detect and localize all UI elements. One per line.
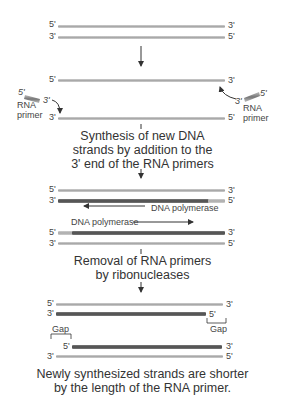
end-label: 5' bbox=[49, 228, 56, 237]
end-label: 5' bbox=[228, 32, 235, 41]
caption-line: Newly synthesized strands are shorter bbox=[0, 367, 285, 381]
caption-line: strands by addition to the bbox=[0, 143, 285, 157]
end-label: 3' bbox=[49, 113, 56, 122]
end-label: 3' bbox=[47, 352, 54, 361]
caption-line: Synthesis of new DNA bbox=[0, 129, 285, 143]
end-label: 3' bbox=[49, 239, 56, 248]
dna-polymerase-label: DNA polymerase bbox=[71, 217, 139, 227]
dna-polymerase-label: DNA polymerase bbox=[151, 203, 219, 213]
end-label: 3' bbox=[47, 309, 54, 318]
new-strand-bottom bbox=[72, 345, 222, 349]
caption-line: by the length of the RNA primer. bbox=[0, 381, 285, 395]
new-strand-top bbox=[56, 312, 206, 316]
template-strand-top bbox=[58, 189, 225, 192]
primer-end-label: 5' bbox=[18, 88, 25, 97]
end-label: 5' bbox=[228, 239, 235, 248]
primer-end-label: 3' bbox=[235, 97, 242, 106]
rna-primer-label: primer bbox=[243, 114, 269, 123]
end-label: 5' bbox=[228, 113, 235, 122]
end-label: 5' bbox=[47, 299, 54, 308]
template-strand-bottom bbox=[58, 117, 225, 120]
gap-label: Gap bbox=[52, 324, 69, 334]
caption-result: Newly synthesized strands are shorter by… bbox=[0, 367, 285, 395]
end-label: 5' bbox=[49, 20, 56, 29]
template-strand-bottom bbox=[56, 355, 223, 358]
primer-end-label: 3' bbox=[43, 96, 50, 105]
gap-bracket-left bbox=[51, 334, 71, 339]
end-label: 3' bbox=[228, 21, 235, 30]
end-label: 5' bbox=[209, 310, 216, 319]
new-strand-bottom bbox=[72, 231, 225, 235]
end-label: 3' bbox=[49, 32, 56, 41]
rna-primer-label: primer bbox=[17, 111, 43, 120]
caption-line: by ribonucleases bbox=[0, 268, 285, 282]
rna-primer-label: RNA bbox=[243, 104, 262, 113]
end-label: 5' bbox=[228, 196, 235, 205]
caption-line: Removal of RNA primers bbox=[0, 254, 285, 268]
end-label: 3' bbox=[49, 196, 56, 205]
end-label: 3' bbox=[228, 186, 235, 195]
end-label: 5' bbox=[226, 352, 233, 361]
parental-strand-bottom bbox=[58, 36, 225, 39]
rna-primer-right bbox=[244, 92, 260, 102]
rna-primer-segment bbox=[58, 231, 73, 235]
caption-line: 3' end of the RNA primers bbox=[0, 157, 285, 171]
end-label: 3' bbox=[226, 300, 233, 309]
template-strand-bottom bbox=[58, 242, 225, 245]
template-strand-top bbox=[58, 79, 225, 82]
end-label: 5' bbox=[63, 342, 70, 351]
end-label: 5' bbox=[49, 75, 56, 84]
gap-label: Gap bbox=[210, 324, 227, 334]
end-label: 3' bbox=[226, 342, 233, 351]
template-strand-top bbox=[56, 303, 223, 306]
caption-removal: Removal of RNA primers by ribonucleases bbox=[0, 254, 285, 282]
caption-synthesis: Synthesis of new DNA strands by addition… bbox=[0, 129, 285, 171]
end-label: 3' bbox=[228, 76, 235, 85]
end-label: 5' bbox=[49, 185, 56, 194]
parental-strand-top bbox=[58, 25, 225, 28]
curved-arrow-right bbox=[220, 87, 236, 99]
primer-end-label: 5' bbox=[260, 89, 267, 98]
end-label: 3' bbox=[228, 228, 235, 237]
rna-primer-label: RNA bbox=[17, 101, 36, 110]
